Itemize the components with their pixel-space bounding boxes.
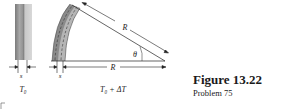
temperature-label-left: T₀	[19, 85, 26, 94]
thickness-label-left: s	[20, 72, 23, 80]
angle-label: θ	[133, 50, 137, 59]
thickness-dimension-right	[49, 61, 66, 73]
radius-dimension-lower	[66, 66, 166, 69]
straight-bimetallic-strip	[15, 4, 32, 60]
thickness-dimension-left	[9, 60, 36, 73]
radius-label-upper: R	[122, 23, 128, 32]
figure-subtitle: Problem 75	[193, 88, 232, 98]
angle-arc	[140, 47, 142, 62]
thickness-label-right: s	[59, 72, 62, 80]
figure-title: Figure 13.22	[193, 72, 262, 88]
crop-mark	[1, 103, 5, 109]
temperature-label-right: T₀ + ΔT	[100, 85, 126, 94]
bent-bimetallic-strip	[52, 4, 80, 61]
bimetallic-strip-diagram: s T₀ R θ R s T₀ + ΔT	[0, 0, 286, 110]
radius-label-lower: R	[110, 63, 116, 72]
